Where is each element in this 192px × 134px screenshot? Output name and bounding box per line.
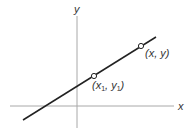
point-x-y-label: (x, y) — [145, 47, 170, 59]
x-axis-label: x — [177, 100, 184, 112]
point-x1-y1 — [91, 73, 96, 78]
line — [23, 37, 156, 120]
point-x1-y1-label: (x1, y1) — [92, 79, 125, 92]
point-x-y — [138, 43, 143, 48]
y-axis-label: y — [73, 3, 81, 15]
point-slope-diagram: y x (x1, y1) (x, y) — [0, 0, 192, 134]
